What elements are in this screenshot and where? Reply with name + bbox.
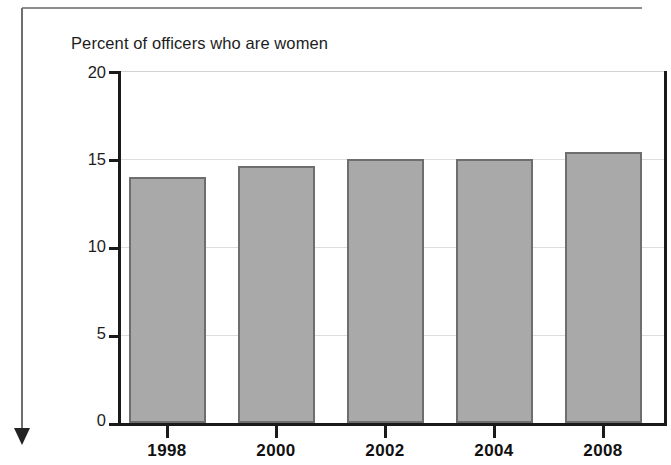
down-arrow-icon (14, 428, 30, 445)
bar-2008 (565, 152, 642, 423)
y-tick-mark-10 (109, 247, 121, 250)
page-top-rule (22, 7, 642, 9)
bar-2004 (456, 159, 533, 423)
x-tick-mark-1998 (166, 426, 169, 438)
x-tick-label-1998: 1998 (112, 441, 222, 461)
x-tick-mark-2004 (493, 426, 496, 438)
chart-title: Percent of officers who are women (71, 34, 328, 53)
x-tick-mark-2002 (384, 426, 387, 438)
y-tick-mark-15 (109, 159, 121, 162)
x-tick-mark-2008 (602, 426, 605, 438)
plot-right-border (664, 71, 667, 426)
y-tick-label-20: 20 (46, 63, 106, 82)
plot-area (118, 71, 667, 426)
y-tick-mark-0 (109, 423, 121, 426)
x-tick-label-2002: 2002 (330, 441, 440, 461)
y-tick-label-15: 15 (46, 150, 106, 169)
y-tick-label-5: 5 (46, 324, 106, 343)
x-tick-mark-2000 (275, 426, 278, 438)
bar-2000 (238, 166, 315, 423)
gridline-20 (121, 71, 667, 72)
y-tick-mark-5 (109, 335, 121, 338)
x-tick-label-2000: 2000 (221, 441, 331, 461)
y-tick-label-0: 0 (46, 411, 106, 430)
bar-2002 (347, 159, 424, 423)
x-tick-label-2008: 2008 (548, 441, 658, 461)
bar-1998 (129, 177, 206, 423)
y-tick-mark-20 (109, 71, 121, 74)
bar-chart: Percent of officers who are women 20 15 … (40, 16, 671, 465)
x-axis-line (118, 423, 667, 426)
x-tick-label-2004: 2004 (439, 441, 549, 461)
page-left-rule (21, 8, 23, 432)
y-tick-label-10: 10 (46, 237, 106, 256)
